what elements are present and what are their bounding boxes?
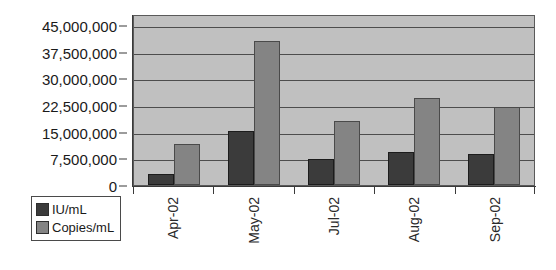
x-category: May-02 xyxy=(213,187,293,270)
bar-iu-ml-may-02 xyxy=(228,131,254,185)
y-tick-label: 7,500,000 xyxy=(50,151,117,168)
x-category-label: Apr-02 xyxy=(165,197,181,239)
y-tick-mark xyxy=(119,26,127,27)
bar-group xyxy=(454,16,534,185)
x-category-label: Sep-02 xyxy=(487,197,503,242)
x-category-label: Aug-02 xyxy=(406,197,422,242)
x-tick-mark xyxy=(213,187,214,194)
y-tick-mark xyxy=(119,79,127,80)
y-axis: 07,500,00015,000,00022,500,00030,000,000… xyxy=(0,0,133,200)
bar-group xyxy=(214,16,294,185)
chart-legend: IU/mLCopies/mL xyxy=(31,196,121,241)
legend-swatch-icon xyxy=(36,221,49,234)
bar-copies-ml-jul-02 xyxy=(334,121,360,185)
y-tick-mark xyxy=(119,52,127,53)
x-category: Apr-02 xyxy=(133,187,213,270)
legend-item: Copies/mL xyxy=(36,218,114,236)
x-tick-mark xyxy=(374,187,375,194)
legend-label: Copies/mL xyxy=(52,220,114,235)
legend-label: IU/mL xyxy=(52,202,87,217)
x-category: Aug-02 xyxy=(374,187,454,270)
bars-layer xyxy=(134,16,534,185)
bar-copies-ml-may-02 xyxy=(254,41,280,185)
x-tick-mark xyxy=(455,187,456,194)
bar-copies-ml-apr-02 xyxy=(174,144,200,185)
y-tick-label: 37,500,000 xyxy=(42,44,117,61)
bar-chart: 07,500,00015,000,00022,500,00030,000,000… xyxy=(0,0,556,270)
y-tick-mark xyxy=(119,186,127,187)
bar-copies-ml-aug-02 xyxy=(414,98,440,185)
bar-group xyxy=(374,16,454,185)
x-category: Jul-02 xyxy=(294,187,374,270)
x-tick-mark xyxy=(534,187,535,194)
x-category-label: Jul-02 xyxy=(326,197,342,235)
y-tick-label: 22,500,000 xyxy=(42,98,117,115)
y-tick-label: 15,000,000 xyxy=(42,124,117,141)
y-tick-mark xyxy=(119,159,127,160)
x-axis-labels: Apr-02May-02Jul-02Aug-02Sep-02 xyxy=(133,187,535,270)
bar-iu-ml-jul-02 xyxy=(308,159,334,185)
bar-group xyxy=(294,16,374,185)
y-tick-label: 0 xyxy=(109,178,117,195)
y-tick-mark xyxy=(119,106,127,107)
x-tick-mark xyxy=(133,187,134,194)
legend-swatch-icon xyxy=(36,203,49,216)
bar-iu-ml-apr-02 xyxy=(148,174,174,185)
plot-area xyxy=(133,15,535,186)
bar-group xyxy=(134,16,214,185)
x-category-label: May-02 xyxy=(246,197,262,244)
bar-iu-ml-sep-02 xyxy=(468,154,494,185)
y-tick-label: 45,000,000 xyxy=(42,18,117,35)
y-tick-label: 30,000,000 xyxy=(42,71,117,88)
bar-copies-ml-sep-02 xyxy=(494,107,520,185)
legend-item: IU/mL xyxy=(36,200,114,218)
bar-iu-ml-aug-02 xyxy=(388,152,414,185)
x-tick-mark xyxy=(294,187,295,194)
y-tick-mark xyxy=(119,132,127,133)
x-category: Sep-02 xyxy=(455,187,535,270)
